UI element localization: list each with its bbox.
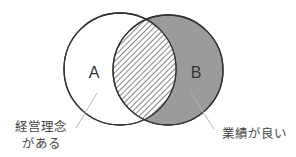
venn-diagram: A B 経営理念 がある 業績が良い [0,0,296,157]
set-a-label-line-2: がある [22,136,61,151]
set-b-letter: B [191,64,202,81]
set-a-label-line-1: 経営理念 [15,119,67,134]
set-b-label: 業績が良い [222,126,287,141]
set-a-letter: A [89,64,100,81]
